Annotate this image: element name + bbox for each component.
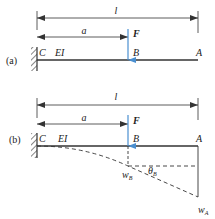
stiffness-label: EI [57, 133, 68, 144]
deflection-curve [37, 146, 198, 197]
cantilever-beam-diagram: (a) l a F C EI B A (b) [0, 0, 215, 219]
deflection-a-label: wA [198, 204, 209, 216]
force-label: F [132, 28, 140, 39]
dimension-a-a: a [37, 25, 128, 37]
point-a-label: A [195, 133, 203, 144]
fixed-support-wall-icon [31, 47, 37, 71]
force-label: F [132, 115, 140, 126]
panel-a: (a) l a F C EI B A [6, 5, 203, 71]
distance-label: a [82, 112, 87, 123]
support-label: C [39, 47, 46, 58]
dimension-l-b: l [37, 91, 198, 120]
point-b-label: B [133, 47, 139, 58]
support-label: C [39, 133, 46, 144]
stiffness-label: EI [54, 47, 65, 58]
point-b-label: B [133, 133, 139, 144]
distance-label: a [82, 25, 87, 36]
length-label: l [115, 5, 118, 16]
rotation-b-label: θB [148, 165, 157, 177]
length-label: l [115, 91, 118, 102]
panel-b-tag: (b) [9, 134, 21, 146]
dimension-a-b: a [37, 112, 128, 124]
panel-b: (b) l a F C EI B A [9, 91, 209, 216]
point-a-label: A [195, 47, 203, 58]
panel-a-tag: (a) [6, 55, 17, 67]
deflection-b-label: wB [122, 169, 133, 181]
dimension-l-a: l [37, 5, 198, 33]
fixed-support-wall-icon [31, 133, 37, 158]
